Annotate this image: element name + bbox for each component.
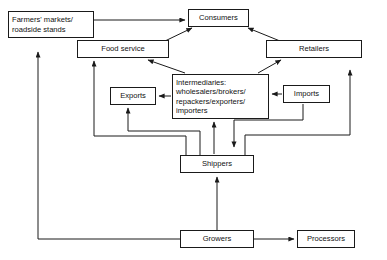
- edge-intermediaries-to-retailers: [258, 60, 281, 73]
- node-exports[interactable]: Exports: [110, 87, 156, 105]
- node-shippers[interactable]: Shippers: [180, 155, 254, 173]
- node-consumers[interactable]: Consumers: [188, 9, 249, 27]
- node-label-exports: Exports: [111, 91, 155, 100]
- flow-diagram: Farmers' markets/ roadside standsConsume…: [0, 0, 387, 260]
- node-processors[interactable]: Processors: [297, 230, 355, 248]
- node-retailers[interactable]: Retailers: [266, 40, 362, 58]
- node-label-food-service: Food service: [78, 44, 168, 53]
- node-label-farmers-markets: Farmers' markets/ roadside stands: [9, 15, 93, 34]
- edge-food-service-to-consumers: [165, 28, 192, 41]
- diagram-connectors-layer: [0, 0, 387, 260]
- node-label-imports: Imports: [284, 89, 329, 98]
- node-growers[interactable]: Growers: [180, 230, 254, 248]
- node-imports[interactable]: Imports: [283, 85, 330, 103]
- node-intermediaries[interactable]: Intermediaries: wholesalers/brokers/ rep…: [172, 74, 269, 119]
- node-farmers-markets[interactable]: Farmers' markets/ roadside stands: [8, 11, 94, 38]
- node-label-consumers: Consumers: [189, 13, 248, 22]
- edge-intermediaries-to-food-service: [148, 60, 185, 73]
- node-label-processors: Processors: [298, 234, 354, 243]
- node-label-intermediaries: Intermediaries: wholesalers/brokers/ rep…: [173, 78, 268, 116]
- node-label-growers: Growers: [181, 234, 253, 243]
- node-food-service[interactable]: Food service: [77, 40, 169, 58]
- node-label-retailers: Retailers: [267, 44, 361, 53]
- edge-growers-to-farmers-markets: [38, 52, 180, 239]
- node-label-shippers: Shippers: [181, 159, 253, 168]
